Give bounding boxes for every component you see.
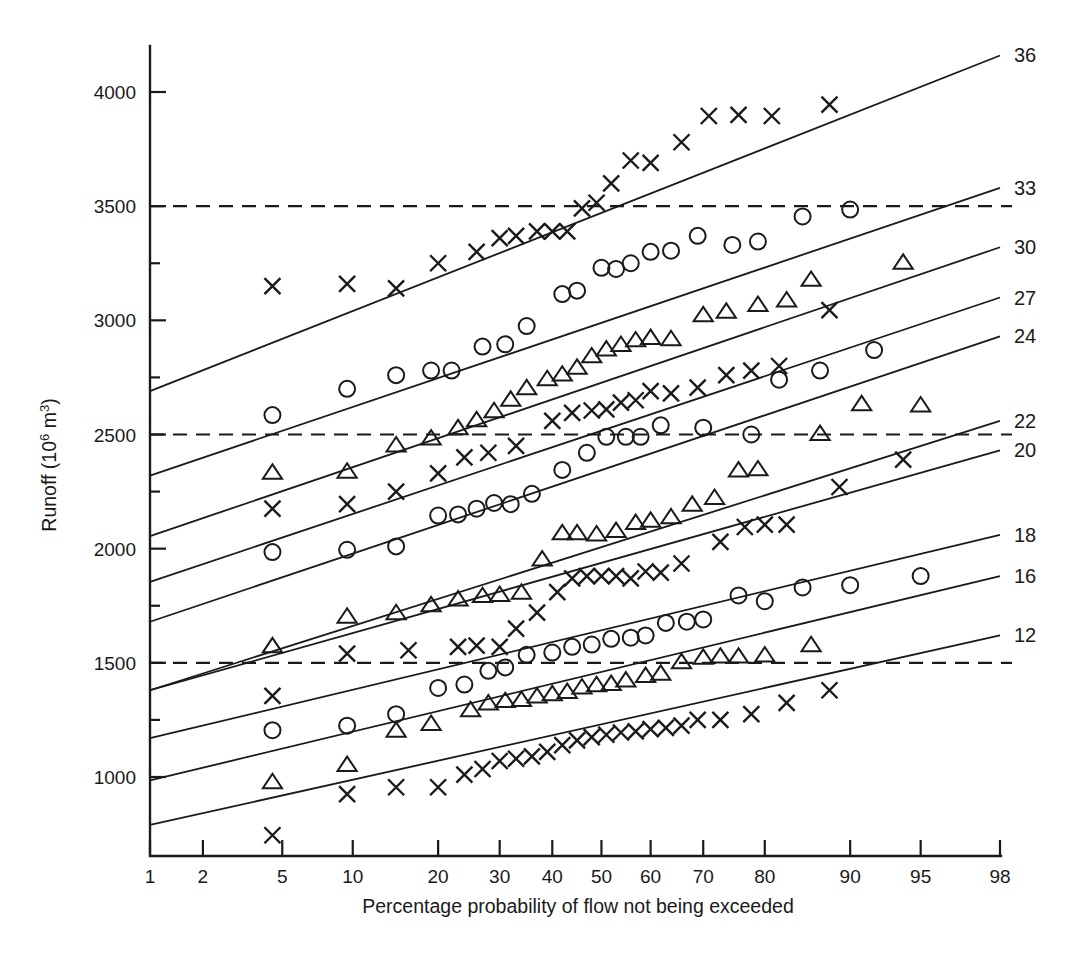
y-tick-label: 2500 <box>94 425 136 446</box>
data-points-group <box>263 97 930 844</box>
data-point-circle <box>519 318 535 334</box>
data-point-triangle <box>748 297 767 311</box>
data-point-cross <box>584 403 600 419</box>
data-point-circle <box>564 639 580 655</box>
data-point-circle <box>579 445 595 461</box>
fit-line-18 <box>150 535 1000 738</box>
data-point-cross <box>569 732 585 748</box>
data-point-triangle <box>512 692 531 706</box>
data-point-cross <box>779 695 795 711</box>
data-point-cross <box>653 565 669 581</box>
data-point-cross <box>690 380 706 396</box>
data-point-cross <box>508 228 524 244</box>
y-tick-labels-group: 1000150020002500300035004000 <box>94 82 136 788</box>
data-point-circle <box>423 363 439 379</box>
data-point-circle <box>633 429 649 445</box>
data-point-circle <box>603 631 619 647</box>
data-point-circle <box>593 260 609 276</box>
data-point-circle <box>388 706 404 722</box>
data-point-triangle <box>672 654 691 668</box>
data-point-triangle <box>512 584 531 598</box>
data-point-circle <box>264 722 280 738</box>
data-point-cross <box>743 706 759 722</box>
data-point-cross <box>613 395 629 411</box>
data-point-cross <box>584 729 600 745</box>
data-point-circle <box>663 243 679 259</box>
data-point-cross <box>508 621 524 637</box>
data-point-cross <box>643 155 659 171</box>
data-point-triangle <box>729 462 748 476</box>
data-point-cross <box>456 449 472 465</box>
data-point-cross <box>524 748 540 764</box>
data-point-circle <box>264 544 280 560</box>
x-tick-label: 20 <box>428 866 449 887</box>
data-point-circle <box>618 429 634 445</box>
data-point-circle <box>475 339 491 355</box>
data-point-triangle <box>705 490 724 504</box>
data-point-triangle <box>661 509 680 523</box>
data-point-cross <box>492 230 508 246</box>
data-point-triangle <box>801 637 820 651</box>
data-point-circle <box>913 568 929 584</box>
data-point-circle <box>695 611 711 627</box>
data-point-cross <box>264 501 280 517</box>
data-point-cross <box>264 688 280 704</box>
data-point-cross <box>628 723 644 739</box>
data-point-cross <box>743 363 759 379</box>
data-point-circle <box>638 627 654 643</box>
x-tick-label: 30 <box>489 866 510 887</box>
data-point-circle <box>679 614 695 630</box>
data-point-triangle <box>810 426 829 440</box>
data-point-circle <box>503 496 519 512</box>
data-point-cross <box>388 484 404 500</box>
data-point-cross <box>456 767 472 783</box>
data-point-circle <box>695 420 711 436</box>
data-point-triangle <box>641 512 660 526</box>
data-point-cross <box>737 519 753 535</box>
data-point-triangle <box>911 397 930 411</box>
data-point-triangle <box>338 463 357 477</box>
y-tick-label: 1000 <box>94 767 136 788</box>
data-point-circle <box>388 538 404 554</box>
y-tick-label: 2000 <box>94 539 136 560</box>
series-18 <box>264 568 928 738</box>
data-point-cross <box>638 564 654 580</box>
data-point-cross <box>475 761 491 777</box>
data-point-cross <box>430 465 446 481</box>
series-label-24: 24 <box>1014 325 1036 347</box>
axes-group <box>150 46 1001 856</box>
series-label-12: 12 <box>1014 624 1036 646</box>
data-point-circle <box>388 367 404 383</box>
data-point-cross <box>593 568 609 584</box>
axis-lines <box>150 46 1001 856</box>
data-point-triangle <box>338 757 357 771</box>
runoff-probability-plot: 1000150020002500300035004000 12510203040… <box>0 0 1071 971</box>
data-point-circle <box>544 645 560 661</box>
data-point-cross <box>554 737 570 753</box>
data-point-cross <box>339 646 355 662</box>
data-point-triangle <box>517 380 536 394</box>
data-point-cross <box>673 718 689 734</box>
data-point-triangle <box>421 716 440 730</box>
data-point-circle <box>430 508 446 524</box>
data-point-cross <box>643 721 659 737</box>
data-point-cross <box>663 385 679 401</box>
data-point-cross <box>701 108 717 124</box>
data-point-circle <box>444 363 460 379</box>
x-tick-label: 5 <box>277 866 288 887</box>
data-point-cross <box>529 223 545 239</box>
data-point-circle <box>456 677 472 693</box>
data-point-cross <box>388 779 404 795</box>
data-point-cross <box>831 479 847 495</box>
data-point-triangle <box>852 396 871 410</box>
data-point-triangle <box>894 254 913 268</box>
data-point-triangle <box>801 271 820 285</box>
data-point-circle <box>469 501 485 517</box>
data-point-triangle <box>387 437 406 451</box>
data-point-cross <box>564 570 580 586</box>
data-point-triangle <box>694 649 713 663</box>
x-axis-title: Percentage probability of flow not being… <box>362 895 793 917</box>
data-point-triangle <box>694 307 713 321</box>
x-tick-label: 10 <box>342 866 363 887</box>
data-point-circle <box>450 506 466 522</box>
